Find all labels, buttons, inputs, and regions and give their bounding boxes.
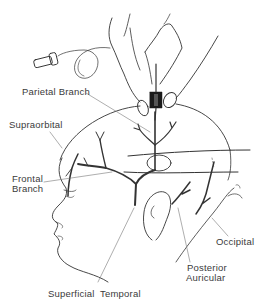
occipital-artery bbox=[196, 162, 214, 214]
label-supraorbital: Supraorbital bbox=[9, 120, 63, 130]
leader-supraorbital bbox=[50, 132, 62, 148]
label-superficial-temporal: Superficial Temporal bbox=[48, 289, 141, 299]
scalp-artery-illustration: Parietal Branch Supraorbital Frontal Bra… bbox=[0, 0, 265, 302]
supraorbital-artery bbox=[68, 154, 78, 196]
leader-frontal bbox=[44, 172, 112, 182]
leader-superficial-temporal bbox=[98, 208, 134, 282]
leader-posterior-auricular bbox=[178, 208, 190, 262]
leader-parietal bbox=[86, 93, 150, 132]
label-posterior-line2: Auricular bbox=[186, 273, 225, 283]
ear bbox=[143, 192, 170, 240]
band bbox=[128, 150, 250, 156]
line-drawing bbox=[0, 0, 265, 302]
label-frontal-line2: Branch bbox=[12, 184, 43, 194]
hand-right-finger bbox=[176, 36, 218, 98]
skull-outline bbox=[60, 104, 230, 160]
posterior-auricular-artery bbox=[172, 182, 190, 204]
label-occipital: Occipital bbox=[216, 237, 254, 247]
leader-occipital bbox=[212, 218, 228, 236]
label-parietal-branch: Parietal Branch bbox=[22, 87, 90, 97]
tubing bbox=[58, 47, 110, 78]
hand-left-finger bbox=[109, 18, 140, 102]
superficial-temporal-artery bbox=[135, 170, 155, 205]
thumb-tip bbox=[147, 155, 171, 171]
